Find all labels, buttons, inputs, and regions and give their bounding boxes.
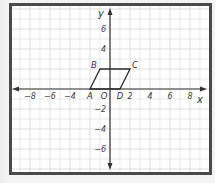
labels: −8−6−4246864−2−4−6OxyABCD xyxy=(24,8,203,154)
vertex-label-c: C xyxy=(132,60,138,70)
x-tick-label: 2 xyxy=(127,92,132,101)
origin-label: O xyxy=(101,91,108,101)
y-tick-label: −6 xyxy=(94,145,106,154)
x-tick-label: −8 xyxy=(24,92,36,101)
y-tick-label: 4 xyxy=(101,45,106,54)
x-tick-label: 6 xyxy=(167,92,172,101)
vertex-label-b: B xyxy=(91,60,97,70)
y-axis-label: y xyxy=(97,8,105,19)
x-axis-label: x xyxy=(196,94,203,105)
x-tick-label: −4 xyxy=(64,92,76,101)
y-tick-label: −4 xyxy=(94,125,106,134)
x-tick-label: −6 xyxy=(44,92,56,101)
x-tick-label: 4 xyxy=(147,92,152,101)
vertex-label-a: A xyxy=(86,91,93,101)
y-tick-label: −2 xyxy=(94,105,106,114)
x-axis-left-arrow-icon xyxy=(12,87,19,92)
x-tick-label: 8 xyxy=(187,92,192,101)
y-tick-label: 6 xyxy=(101,25,106,34)
coordinate-plane: −8−6−4246864−2−4−6OxyABCD xyxy=(0,0,215,183)
vertex-label-d: D xyxy=(117,91,124,101)
x-axis-right-arrow-icon xyxy=(200,87,207,92)
